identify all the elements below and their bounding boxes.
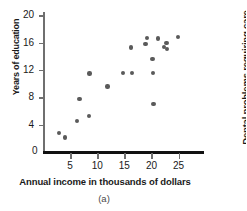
- data-point: [151, 71, 155, 75]
- y-tick-label: 12: [23, 64, 34, 75]
- y-tick-label: 4: [28, 119, 34, 130]
- y-tick: 8: [39, 97, 44, 98]
- data-point: [165, 47, 169, 51]
- x-tick: [124, 153, 125, 159]
- data-point: [145, 36, 149, 40]
- data-point: [164, 41, 168, 45]
- y-tick: 4: [39, 125, 44, 126]
- data-point: [57, 131, 61, 135]
- figure-caption: (a): [0, 193, 208, 204]
- x-tick-label: 25: [173, 160, 184, 171]
- y-tick-label: 16: [23, 37, 34, 48]
- data-point: [75, 119, 79, 123]
- x-tick-label: 15: [119, 160, 130, 171]
- data-point: [77, 97, 81, 101]
- data-point: [63, 135, 67, 139]
- y-tick-label: 8: [28, 91, 34, 102]
- data-point: [87, 114, 91, 118]
- data-point: [130, 71, 134, 75]
- scatter-plot-figure: Years of education Dental problems requi…: [0, 0, 246, 211]
- x-tick: [70, 153, 71, 159]
- data-point: [105, 84, 109, 88]
- y-tick: 16: [39, 43, 44, 44]
- x-tick-label: 5: [67, 160, 73, 171]
- data-point: [129, 45, 133, 49]
- y-axis-line: [43, 12, 45, 153]
- data-point: [176, 35, 180, 39]
- data-point: [150, 57, 154, 61]
- x-tick-label: 20: [146, 160, 157, 171]
- y-tick-label: 20: [23, 9, 34, 20]
- adjacent-figure-y-axis-title: Dental problems requiring care: [240, 0, 247, 173]
- x-tick: [179, 153, 180, 159]
- data-point: [121, 71, 125, 75]
- x-tick: [151, 153, 152, 159]
- x-axis-title: Annual income in thousands of dollars: [0, 176, 210, 187]
- y-tick: 12: [39, 70, 44, 71]
- data-point: [151, 102, 155, 106]
- data-point: [87, 71, 91, 75]
- data-point: [156, 36, 160, 40]
- plot-area: 0 48121620 510152025: [43, 12, 203, 152]
- x-tick-label: 10: [92, 160, 103, 171]
- data-point: [143, 42, 147, 46]
- y-axis-title: Years of education: [11, 0, 21, 117]
- x-tick: [97, 153, 98, 159]
- y-tick: 20: [39, 15, 44, 16]
- origin-tick-label: 0: [32, 145, 38, 156]
